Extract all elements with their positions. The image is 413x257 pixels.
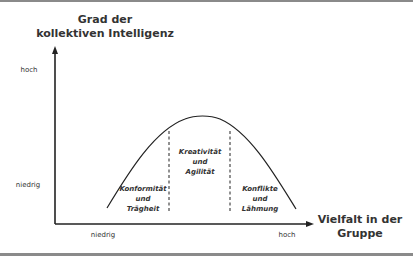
y-axis-title: Grad der kollektiven Intelligenz (30, 13, 180, 41)
region-conflict: Konflikte und Lähmung (235, 184, 285, 214)
x-axis-title-line1: Vielfalt in der (315, 213, 405, 227)
region-creativity-line1: Kreativität (175, 147, 225, 157)
y-tick-low: niedrig (10, 181, 46, 189)
x-axis-title: Vielfalt in der Gruppe (315, 213, 405, 241)
region-conformity-line1: Konformität (118, 184, 168, 194)
x-axis-arrow-icon (306, 221, 314, 227)
y-axis-title-line1: Grad der (30, 13, 180, 27)
x-tick-high: hoch (272, 231, 302, 239)
region-conformity: Konformität und Trägheit (118, 184, 168, 214)
y-axis-arrow-icon (52, 46, 58, 54)
region-conformity-line2: und (118, 194, 168, 204)
region-creativity-line3: Agilität (175, 167, 225, 177)
region-conflict-line2: und (235, 194, 285, 204)
y-tick-high: hoch (14, 66, 44, 74)
region-conflict-line1: Konflikte (235, 184, 285, 194)
region-creativity-line2: und (175, 157, 225, 167)
region-conflict-line3: Lähmung (235, 204, 285, 214)
x-tick-low: niedrig (83, 231, 123, 239)
x-axis-title-line2: Gruppe (315, 227, 405, 241)
y-axis-title-line2: kollektiven Intelligenz (30, 27, 180, 41)
region-creativity: Kreativität und Agilität (175, 147, 225, 177)
region-conformity-line3: Trägheit (118, 204, 168, 214)
